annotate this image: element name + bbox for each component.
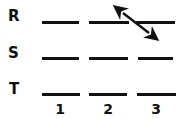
column-label-3: 3 [147, 102, 165, 116]
column-label-1: 1 [51, 102, 69, 116]
level-dash-t3 [137, 93, 176, 96]
level-dash-r2 [89, 21, 129, 24]
level-dash-s3 [138, 57, 173, 60]
row-label-r: R [8, 9, 20, 24]
level-dash-r3 [136, 21, 175, 24]
diagram-canvas: R S T 1 2 3 [0, 0, 177, 119]
level-dash-s1 [42, 57, 79, 60]
row-label-t: T [9, 82, 19, 97]
level-dash-t2 [89, 93, 127, 96]
level-dash-s2 [89, 57, 128, 60]
level-dash-r1 [42, 21, 79, 24]
level-dash-t1 [42, 93, 80, 96]
row-label-s: S [8, 46, 19, 61]
column-label-2: 2 [99, 102, 117, 116]
